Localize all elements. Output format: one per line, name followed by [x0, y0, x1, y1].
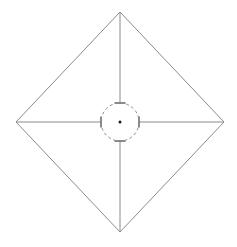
diagram-svg	[0, 0, 237, 247]
center-point-dot	[119, 121, 122, 124]
drawing-canvas	[0, 0, 237, 247]
